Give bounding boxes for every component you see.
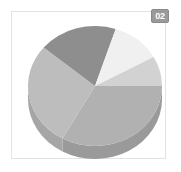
pie-chart-stage[interactable]: Segment A 33%Segment B 28%Segment C 19%S… [11,11,166,159]
thumbnail-root: Segment A 33%Segment B 28%Segment C 19%S… [0,0,181,172]
index-badge[interactable]: 02 [151,9,169,23]
pie-chart-svg: Segment A 33%Segment B 28%Segment C 19%S… [11,11,166,159]
index-badge-label: 02 [155,12,165,21]
pie-top-face-group: Segment A 33%Segment B 28%Segment C 19%S… [28,26,162,146]
